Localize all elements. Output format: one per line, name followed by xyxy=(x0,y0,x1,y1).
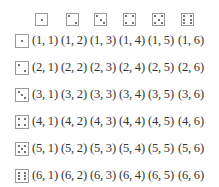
pip xyxy=(24,151,26,153)
pip xyxy=(190,22,192,24)
pip xyxy=(158,19,160,21)
pip xyxy=(68,15,70,17)
outcome-pair: (2, 5) xyxy=(148,60,174,75)
pip xyxy=(190,15,192,17)
outcome-pair: (1, 4) xyxy=(119,33,145,48)
outcome-pair: (6, 6) xyxy=(178,168,204,183)
header-die-3-icon xyxy=(94,13,107,26)
outcome-pair: (6, 2) xyxy=(61,168,87,183)
outcome-pair: (4, 6) xyxy=(178,114,204,129)
outcome-pair: (1, 3) xyxy=(90,33,116,48)
pip xyxy=(24,172,26,174)
pip xyxy=(18,172,20,174)
outcome-pair: (4, 2) xyxy=(61,114,87,129)
outcome-pair: (3, 4) xyxy=(119,87,145,102)
pip xyxy=(190,19,192,21)
outcome-pair: (5, 5) xyxy=(148,141,174,156)
pip xyxy=(183,19,185,21)
outcome-pair: (2, 3) xyxy=(90,60,116,75)
pip xyxy=(18,175,20,177)
outcome-pair: (6, 5) xyxy=(148,168,174,183)
outcome-pair: (6, 1) xyxy=(32,168,58,183)
pip xyxy=(18,64,20,66)
outcome-pair: (5, 2) xyxy=(61,141,87,156)
pip xyxy=(18,91,20,93)
header-die-2-icon xyxy=(66,13,79,26)
outcome-pair: (4, 1) xyxy=(32,114,58,129)
outcome-pair: (2, 1) xyxy=(32,60,58,75)
pip xyxy=(125,15,127,17)
pip xyxy=(103,22,105,24)
outcome-pair: (3, 1) xyxy=(32,87,58,102)
pip xyxy=(24,124,26,126)
outcome-pair: (1, 6) xyxy=(178,33,204,48)
row-die-3-icon xyxy=(15,88,29,102)
pip xyxy=(41,19,43,21)
outcome-pair: (1, 1) xyxy=(32,33,58,48)
row-die-5-icon xyxy=(15,142,29,156)
pip xyxy=(161,22,163,24)
pip xyxy=(18,145,20,147)
pip xyxy=(183,15,185,17)
header-die-5-icon xyxy=(152,13,165,26)
header-die-4-icon xyxy=(123,13,136,26)
header-die-1-icon xyxy=(35,13,48,26)
outcome-pair: (2, 4) xyxy=(119,60,145,75)
pip xyxy=(18,178,20,180)
pip xyxy=(96,15,98,17)
pip xyxy=(24,70,26,72)
outcome-pair: (4, 3) xyxy=(90,114,116,129)
row-die-1-icon xyxy=(15,34,29,48)
outcome-pair: (6, 4) xyxy=(119,168,145,183)
pip xyxy=(132,22,134,24)
pip xyxy=(161,15,163,17)
outcome-pair: (5, 3) xyxy=(90,141,116,156)
outcome-pair: (5, 4) xyxy=(119,141,145,156)
pip xyxy=(154,22,156,24)
pip xyxy=(21,94,23,96)
outcome-pair: (3, 5) xyxy=(148,87,174,102)
outcome-pair: (3, 3) xyxy=(90,87,116,102)
pip xyxy=(24,97,26,99)
row-die-6-icon xyxy=(15,169,29,183)
pip xyxy=(183,22,185,24)
pip xyxy=(154,15,156,17)
pip xyxy=(75,22,77,24)
row-die-2-icon xyxy=(15,61,29,75)
pip xyxy=(21,40,23,42)
outcome-pair: (3, 6) xyxy=(178,87,204,102)
outcome-pair: (1, 5) xyxy=(148,33,174,48)
outcome-pair: (6, 3) xyxy=(90,168,116,183)
outcome-pair: (3, 2) xyxy=(61,87,87,102)
pip xyxy=(18,124,20,126)
outcome-pair: (4, 4) xyxy=(119,114,145,129)
pip xyxy=(24,178,26,180)
outcome-pair: (2, 6) xyxy=(178,60,204,75)
outcome-pair: (1, 2) xyxy=(61,33,87,48)
pip xyxy=(18,151,20,153)
row-die-4-icon xyxy=(15,115,29,129)
pip xyxy=(24,145,26,147)
outcome-pair: (2, 2) xyxy=(61,60,87,75)
outcome-pair: (5, 1) xyxy=(32,141,58,156)
pip xyxy=(24,118,26,120)
pip xyxy=(18,118,20,120)
outcome-pair: (5, 6) xyxy=(178,141,204,156)
pip xyxy=(24,175,26,177)
header-die-6-icon xyxy=(181,13,194,26)
outcome-pair: (4, 5) xyxy=(148,114,174,129)
pip xyxy=(21,148,23,150)
pip xyxy=(125,22,127,24)
pip xyxy=(132,15,134,17)
pip xyxy=(100,19,102,21)
